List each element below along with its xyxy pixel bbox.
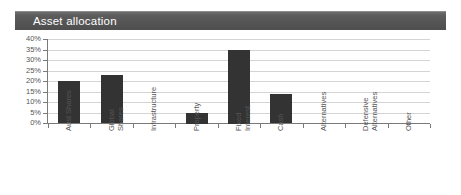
y-axis-tick bbox=[43, 50, 48, 51]
y-axis-tick-label: 20% bbox=[16, 77, 41, 85]
x-axis-tick bbox=[90, 124, 91, 128]
x-axis-tick bbox=[48, 124, 49, 128]
y-axis-tick bbox=[43, 81, 48, 82]
x-axis-tick bbox=[133, 124, 134, 128]
x-axis-label: Alternatives bbox=[320, 92, 329, 131]
x-axis-tick bbox=[345, 124, 346, 128]
y-axis-tick bbox=[43, 71, 48, 72]
y-axis-tick-label: 15% bbox=[16, 88, 41, 96]
x-axis-tick bbox=[388, 124, 389, 128]
gridline bbox=[48, 39, 430, 40]
x-axis-tick bbox=[260, 124, 261, 128]
x-axis-label: Cash bbox=[277, 113, 286, 131]
y-axis-tick bbox=[43, 102, 48, 103]
x-axis-tick bbox=[218, 124, 219, 128]
x-axis-label: Alternatives bbox=[371, 92, 380, 131]
x-axis-label: Interest bbox=[244, 106, 253, 131]
x-axis-label: Infrastructure bbox=[150, 87, 159, 131]
y-axis-tick bbox=[43, 39, 48, 40]
x-axis-tick bbox=[175, 124, 176, 128]
x-axis-tick bbox=[303, 124, 304, 128]
x-axis-label: Other bbox=[405, 112, 414, 131]
y-axis-tick-label: 10% bbox=[16, 98, 41, 106]
y-axis-tick-label: 0% bbox=[16, 119, 41, 127]
y-axis-tick-label: 25% bbox=[16, 67, 41, 75]
y-axis-tick-label: 35% bbox=[16, 46, 41, 54]
page-title: Asset allocation bbox=[33, 15, 117, 27]
y-axis-tick bbox=[43, 60, 48, 61]
x-axis-label: Shares bbox=[117, 107, 126, 131]
panel-title-bar: Asset allocation bbox=[15, 11, 446, 30]
y-axis-tick bbox=[43, 92, 48, 93]
x-axis-label: Property bbox=[193, 103, 202, 131]
x-axis-tick bbox=[430, 124, 431, 128]
asset-allocation-bar-chart: 40%35%30%25%20%15%10%5%0% Aust SharesGlo… bbox=[0, 34, 461, 195]
y-axis-tick-label: 5% bbox=[16, 109, 41, 117]
x-axis-label: Aust Shares bbox=[65, 90, 74, 131]
y-axis-tick-label: 30% bbox=[16, 56, 41, 64]
y-axis-tick-label: 40% bbox=[16, 35, 41, 43]
y-axis-tick bbox=[43, 113, 48, 114]
